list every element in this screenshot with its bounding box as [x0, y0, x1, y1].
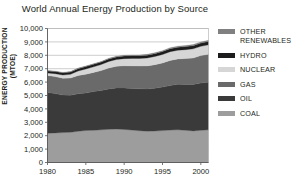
legend-label-gas: GAS — [240, 80, 256, 89]
legend-label-hydro: HYDRO — [240, 51, 267, 60]
y-tick-label: 9,000 — [24, 38, 43, 47]
x-tick-label: 2000 — [192, 167, 209, 176]
y-tick-label: 10,000 — [20, 24, 43, 33]
y-tick-label: 7,000 — [24, 64, 43, 73]
y-tick-label: 0 — [39, 158, 43, 167]
legend-swatch-hydro — [218, 53, 235, 58]
legend-swatch-nuclear — [218, 67, 235, 72]
legend-label-oil: OIL — [240, 94, 252, 103]
legend-label-other-renewables: OTHER RENEWABLES — [240, 27, 291, 45]
legend-item-nuclear[interactable]: NUCLEAR — [218, 65, 307, 74]
legend-item-coal[interactable]: COAL — [218, 109, 307, 118]
y-tick-label: 5,000 — [24, 91, 43, 100]
chart-legend: OTHER RENEWABLESHYDRONUCLEARGASOILCOAL — [218, 27, 307, 123]
chart-figure: World Annual Energy Production by Source… — [0, 0, 307, 193]
x-tick-label: 1980 — [39, 167, 56, 176]
legend-swatch-oil — [218, 96, 235, 101]
y-tick-label: 6,000 — [24, 78, 43, 87]
legend-label-nuclear: NUCLEAR — [240, 65, 275, 74]
y-tick-label: 3,000 — [24, 118, 43, 127]
y-tick-label: 8,000 — [24, 51, 43, 60]
x-tick-label: 1990 — [116, 167, 133, 176]
legend-swatch-coal — [218, 111, 235, 116]
x-axis-ticks: 19801985199019952000 — [39, 163, 209, 177]
legend-item-gas[interactable]: GAS — [218, 80, 307, 89]
y-tick-label: 1,000 — [24, 145, 43, 154]
x-tick-label: 1985 — [77, 167, 94, 176]
y-axis-ticks: 01,0002,0003,0004,0005,0006,0007,0008,00… — [20, 24, 48, 167]
legend-swatch-other-renewables — [218, 29, 235, 34]
x-tick-label: 1995 — [154, 167, 171, 176]
y-tick-label: 4,000 — [24, 105, 43, 114]
legend-item-other-renewables[interactable]: OTHER RENEWABLES — [218, 27, 307, 45]
y-tick-label: 2,000 — [24, 131, 43, 140]
legend-item-oil[interactable]: OIL — [218, 94, 307, 103]
area-band-coal — [48, 129, 209, 163]
legend-label-coal: COAL — [240, 109, 260, 118]
legend-item-hydro[interactable]: HYDRO — [218, 51, 307, 60]
area-series-group — [48, 40, 209, 162]
legend-swatch-gas — [218, 82, 235, 87]
